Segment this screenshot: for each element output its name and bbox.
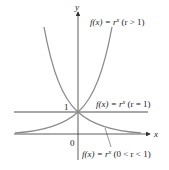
decay-label-pointer [105,128,111,147]
exponential-functions-diagram: y x 0 1 f(x) = rx (r > 1) f(x) = rx (r =… [0,0,169,170]
plot-canvas: y x 0 1 f(x) = rx (r > 1) f(x) = rx (r =… [0,0,169,170]
x-axis-label: x [153,129,158,139]
growth-curve-label: f(x) = rx (r > 1) [90,17,145,27]
origin-label: 0 [70,138,75,148]
decay-curve-label: f(x) = rx (0 < r < 1) [82,149,151,159]
y-tick-label-1: 1 [64,102,69,112]
constant-curve-label: f(x) = rx (r = 1) [96,99,151,109]
y-axis-label: y [74,2,79,12]
